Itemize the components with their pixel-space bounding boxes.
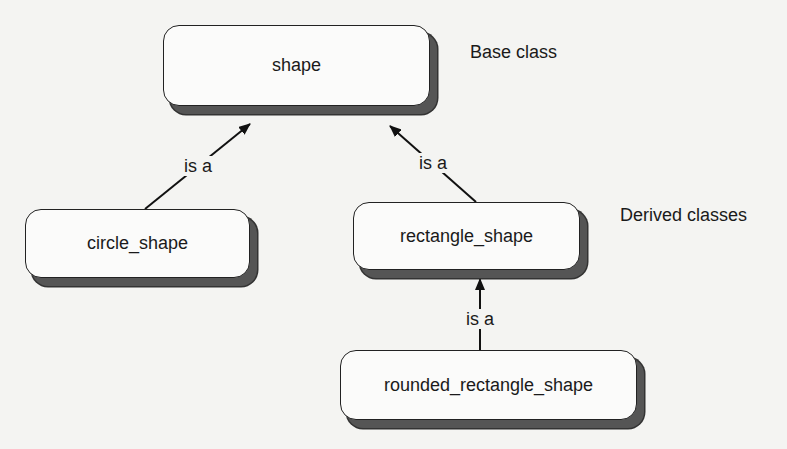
class-node-circle-shape: circle_shape <box>25 209 250 278</box>
class-node-label: circle_shape <box>87 233 188 254</box>
edge-label-circle-is-a: is a <box>182 156 214 176</box>
class-node-rectangle-shape: rectangle_shape <box>353 202 580 270</box>
class-node-label: rectangle_shape <box>400 226 533 247</box>
class-node-label: rounded_rectangle_shape <box>384 375 593 396</box>
edge-label-rectangle-is-a: is a <box>417 153 449 173</box>
class-node-shape: shape <box>163 25 430 106</box>
edge-label-rounded-is-a: is a <box>464 309 496 329</box>
annotation-derived-classes: Derived classes <box>620 205 747 225</box>
class-node-rounded-rectangle-shape: rounded_rectangle_shape <box>340 350 637 420</box>
class-node-label: shape <box>272 55 321 76</box>
annotation-base-class: Base class <box>470 42 557 62</box>
inheritance-diagram: is a is a is a shape circle_shape rectan… <box>0 0 787 449</box>
